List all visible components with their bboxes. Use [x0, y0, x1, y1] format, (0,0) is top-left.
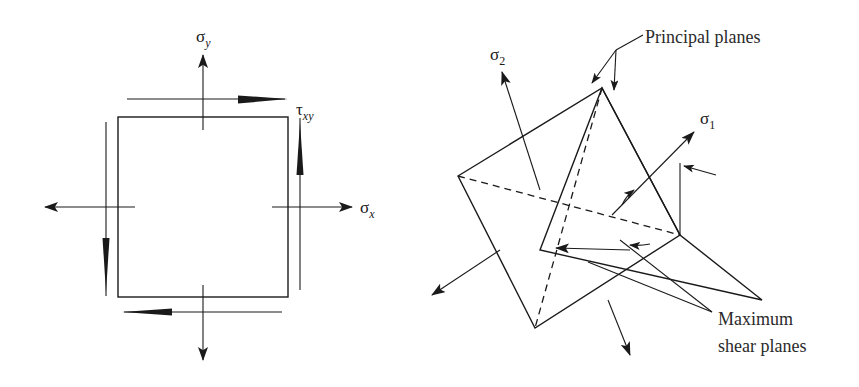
label-sigma-1: σ1	[700, 109, 715, 132]
sigma-y-subscript: y	[204, 36, 211, 50]
label-maximum-shear-planes-line1: Maximum	[718, 309, 793, 329]
tau-right-arrow	[297, 122, 304, 175]
label-sigma-2: σ2	[490, 45, 505, 68]
right-planes-group	[432, 35, 762, 355]
plane-b-outline	[540, 88, 762, 300]
label-tau-xy: τxy	[296, 100, 314, 123]
sigma-x-symbol: σ	[360, 198, 369, 217]
figure-canvas: σy σx τxy σ2 σ1 Principal planes Maximum…	[0, 0, 859, 387]
shear-leader-line-2	[588, 262, 712, 312]
sigma-1-arrow	[612, 132, 694, 215]
sigma-1-symbol: σ	[700, 109, 709, 128]
tau-bottom-arrow	[122, 309, 172, 316]
principal-leader-arrow-left	[592, 50, 616, 83]
shear-arrow-lower-left	[630, 244, 650, 245]
principal-leader-stem	[616, 35, 643, 50]
shear-leader-line-1	[620, 240, 712, 312]
label-sigma-y: σy	[196, 27, 211, 50]
left-stress-element-group	[45, 55, 352, 360]
sigma-1-subscript: 1	[709, 118, 715, 132]
tau-left-arrow	[103, 238, 110, 292]
tau-subscript: xy	[302, 109, 314, 123]
principal-leader-arrow-right	[614, 50, 616, 90]
sigma-2-symbol: σ	[490, 45, 499, 64]
sigma-y-symbol: σ	[196, 27, 205, 46]
figure-root: σy σx τxy σ2 σ1 Principal planes Maximum…	[0, 0, 859, 387]
label-maximum-shear-planes-line2: shear planes	[718, 336, 806, 356]
sigma-1-opposite-arrow	[556, 248, 630, 250]
label-principal-planes: Principal planes	[645, 27, 760, 47]
sigma-x-subscript: x	[368, 207, 375, 221]
sigma-2-arrow	[502, 72, 540, 190]
stress-element-square	[118, 117, 288, 297]
sigma-2-subscript: 2	[499, 54, 505, 68]
shear-arrow-right-inward	[684, 166, 716, 175]
label-sigma-x: σx	[360, 198, 375, 221]
shear-arrow-bottom	[608, 300, 630, 355]
sigma-2-opposite-arrow	[432, 250, 500, 295]
tau-top-arrow	[238, 96, 288, 104]
